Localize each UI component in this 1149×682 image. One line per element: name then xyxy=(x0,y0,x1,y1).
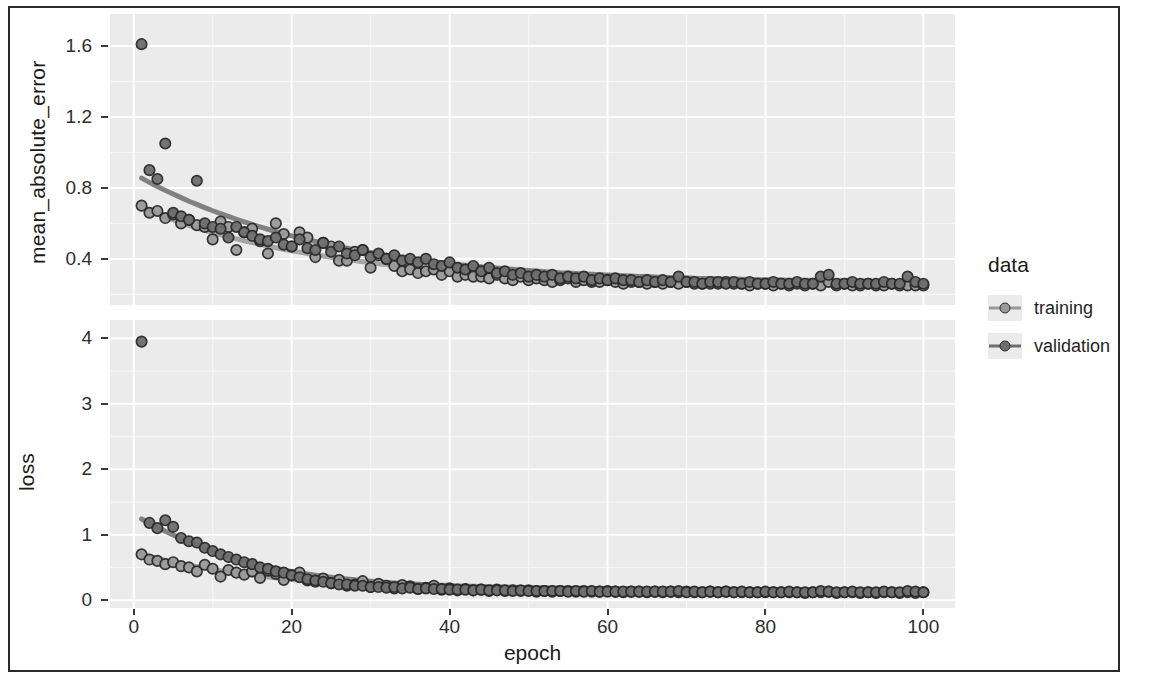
y-tick-label: 1 xyxy=(20,524,92,546)
y-tick-label: 0.4 xyxy=(20,248,92,270)
y-tick-mark xyxy=(101,116,108,118)
x-tick-label: 40 xyxy=(420,616,480,638)
y-tick-mark xyxy=(101,45,108,47)
y-tick-mark xyxy=(101,337,108,339)
panel-mean-absolute-error xyxy=(110,14,955,305)
legend-key-training-icon xyxy=(988,295,1022,321)
y-tick-label: 4 xyxy=(20,327,92,349)
y-tick-label: 0 xyxy=(20,589,92,611)
y-tick-mark xyxy=(101,258,108,260)
legend: data training validation xyxy=(988,253,1138,369)
x-tick-mark xyxy=(607,609,609,615)
y-tick-label: 3 xyxy=(20,393,92,415)
x-tick-label: 80 xyxy=(735,616,795,638)
mae-data-layer xyxy=(110,14,955,305)
mae-y-axis-title: mean_absolute_error xyxy=(26,64,50,264)
y-tick-mark xyxy=(101,534,108,536)
legend-item-validation[interactable]: validation xyxy=(988,331,1138,361)
y-tick-mark xyxy=(101,403,108,405)
x-tick-mark xyxy=(449,609,451,615)
y-tick-label: 2 xyxy=(20,458,92,480)
y-tick-label: 0.8 xyxy=(20,177,92,199)
legend-item-training[interactable]: training xyxy=(988,293,1138,323)
loss-data-layer xyxy=(110,320,955,608)
x-tick-mark xyxy=(291,609,293,615)
x-tick-mark xyxy=(764,609,766,615)
y-tick-mark xyxy=(101,599,108,601)
legend-label-training: training xyxy=(1034,298,1093,319)
x-tick-mark xyxy=(133,609,135,615)
x-tick-label: 0 xyxy=(104,616,164,638)
y-tick-mark xyxy=(101,468,108,470)
x-tick-label: 100 xyxy=(893,616,953,638)
panel-loss xyxy=(110,320,955,608)
x-tick-mark xyxy=(922,609,924,615)
legend-title: data xyxy=(988,253,1138,277)
y-tick-label: 1.6 xyxy=(20,35,92,57)
y-tick-label: 1.2 xyxy=(20,106,92,128)
legend-label-validation: validation xyxy=(1034,336,1110,357)
x-tick-label: 20 xyxy=(262,616,322,638)
x-axis-title: epoch xyxy=(110,641,955,665)
y-tick-mark xyxy=(101,187,108,189)
facet-chart-root: mean_absolute_error loss epoch 0.40.81.2… xyxy=(0,0,1149,682)
x-tick-label: 60 xyxy=(578,616,638,638)
legend-key-validation-icon xyxy=(988,333,1022,359)
